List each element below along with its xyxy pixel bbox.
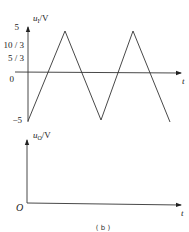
top-y-axis-label: uI/V: [33, 13, 49, 24]
waveform-figure: uI/V 5 10 / 3 5 / 3 0 −5 t uO/V O t ( b …: [0, 0, 189, 232]
bottom-t-axis: [27, 203, 181, 205]
top-t-axis-label: t: [182, 76, 185, 86]
input-triangle-wave: [28, 31, 170, 122]
figure-caption: ( b ): [96, 224, 111, 232]
tick-label-5: 5: [15, 22, 20, 32]
origin-label: O: [16, 202, 23, 213]
tick-label-5-3: 5 / 3: [8, 53, 25, 63]
output-waveform-plot: uO/V O t: [16, 130, 184, 218]
tick-label-minus-5: −5: [12, 115, 22, 125]
bottom-y-axis-label: uO/V: [33, 130, 51, 141]
tick-label-0: 0: [10, 74, 15, 84]
input-waveform-plot: uI/V 5 10 / 3 5 / 3 0 −5 t: [3, 13, 185, 125]
tick-label-10-3: 10 / 3: [3, 40, 24, 50]
top-t-axis: [15, 72, 181, 73]
bottom-t-axis-label: t: [181, 208, 184, 218]
